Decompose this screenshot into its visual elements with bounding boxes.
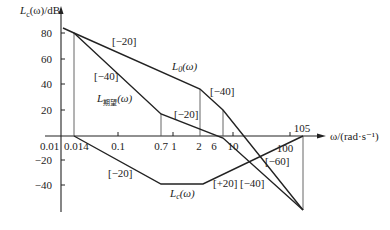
slope-L0-2: [−40] — [210, 85, 235, 97]
slope-Lc-2: [+20] — [213, 177, 238, 189]
y-tick-40: 40 — [41, 78, 53, 90]
x-tick-0.1: 0.1 — [111, 140, 125, 152]
y-tick-20: 20 — [41, 104, 53, 116]
slope-Lexp-1: [−40] — [94, 70, 119, 82]
y-tick-60: 60 — [41, 53, 53, 65]
label-L0: L0(ω) — [171, 60, 198, 74]
y-tick-80: 80 — [41, 27, 53, 39]
x-tick-6: 6 — [211, 140, 217, 152]
slope-L0-3: [−60] — [265, 155, 290, 167]
x-tick-1: 1 — [171, 140, 177, 152]
x-tick-0.01: 0.01 — [40, 140, 59, 152]
slope-Lexp-3: [−40] — [240, 177, 265, 189]
label-L-expected: L期望(ω) — [96, 92, 133, 107]
label-Lc: Lc(ω) — [169, 187, 195, 201]
x-tick-0.7: 0.7 — [154, 140, 168, 152]
x-axis-arrow-icon — [317, 134, 326, 139]
x-ticks — [118, 132, 290, 136]
x-tick-105: 105 — [294, 122, 311, 134]
slope-Lexp-2: [−20] — [174, 108, 199, 120]
x-axis-label: ω/(rad·s⁻¹) — [330, 130, 379, 143]
y-tick-minus20: −20 — [35, 154, 53, 166]
x-tick-2: 2 — [196, 140, 202, 152]
y-tick-minus40: −40 — [35, 179, 53, 191]
bode-plot: 80 60 40 20 −20 −40 0.01 0.014 0.1 0.7 1… — [0, 0, 390, 230]
slope-L0-1: [−20] — [112, 35, 137, 47]
y-ticks — [61, 33, 65, 185]
slope-Lc-1: [−20] — [108, 167, 133, 179]
y-axis-label: Lc(ω)/dB — [19, 4, 60, 19]
